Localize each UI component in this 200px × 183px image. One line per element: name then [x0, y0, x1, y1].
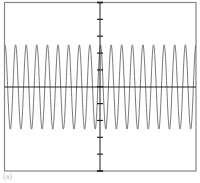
oscilloscope-plot — [0, 0, 200, 183]
figure-caption: (a) — [3, 172, 12, 181]
